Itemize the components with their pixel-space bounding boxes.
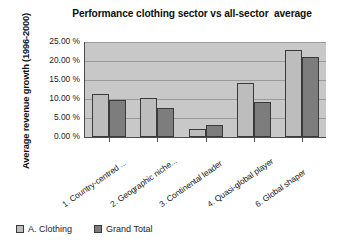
bar-1-series-2 xyxy=(109,100,126,137)
bar-1-series-1 xyxy=(92,94,109,137)
bar-3-series-1 xyxy=(189,129,206,137)
legend-swatch-icon xyxy=(16,225,24,233)
legend-label: Grand Total xyxy=(106,224,152,234)
bar-3-series-2 xyxy=(206,125,223,137)
legend-swatch-icon xyxy=(94,225,102,233)
bar-2-series-2 xyxy=(157,108,174,137)
chart-legend: A. ClothingGrand Total xyxy=(16,222,174,236)
x-tick-mark xyxy=(109,138,110,142)
bar-4-series-1 xyxy=(237,83,254,137)
x-tick-mark xyxy=(302,138,303,142)
bar-2-series-1 xyxy=(140,98,157,137)
bar-4-series-2 xyxy=(254,102,271,137)
y-tick-label: 0.00 % xyxy=(24,132,80,141)
y-tick-label: 25.00 % xyxy=(24,37,80,46)
legend-label: A. Clothing xyxy=(28,224,72,234)
y-tick-label: 15.00 % xyxy=(24,75,80,84)
legend-item-1[interactable]: A. Clothing xyxy=(16,224,72,234)
y-axis-tick-labels: 0.00 %5.00 %10.00 %15.00 %20.00 %25.00 % xyxy=(22,0,80,252)
y-tick-label: 10.00 % xyxy=(24,94,80,103)
legend-item-2[interactable]: Grand Total xyxy=(94,224,152,234)
bars-layer xyxy=(85,42,326,137)
chart-title: Performance clothing sector vs all-secto… xyxy=(46,8,338,20)
y-tick-label: 5.00 % xyxy=(24,113,80,122)
bar-chart: Performance clothing sector vs all-secto… xyxy=(0,0,344,252)
bar-5-series-2 xyxy=(302,57,319,137)
x-tick-mark xyxy=(254,138,255,142)
bar-5-series-1 xyxy=(285,50,302,137)
x-tick-mark xyxy=(157,138,158,142)
y-tick-label: 20.00 % xyxy=(24,56,80,65)
x-tick-mark xyxy=(206,138,207,142)
